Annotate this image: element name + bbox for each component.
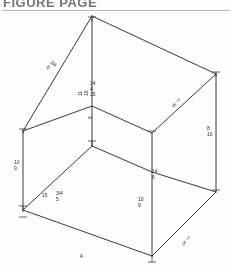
dimension-vertical-upper-left: 11 16	[78, 91, 89, 96]
edge-top-left-inner	[23, 106, 92, 131]
title-divider	[2, 10, 230, 11]
dim-sub: 5	[56, 197, 63, 203]
page-header: FIGURE PAGE	[0, 0, 232, 15]
dimension-mid-right: 14 6	[152, 169, 157, 180]
dim-sub: 9	[14, 166, 19, 172]
edge-bottom-front-left	[23, 210, 152, 256]
dim-sub: 9	[138, 203, 143, 209]
dim-value: 4	[80, 253, 83, 259]
dimension-lower-right-vertical: 10 9	[138, 197, 143, 208]
edge-mid-right	[152, 172, 216, 192]
dimension-bottom-edge: 4	[80, 254, 83, 260]
dim-value-3: 15	[90, 92, 95, 98]
vertex-tick-marks	[19, 17, 220, 262]
dim-value: 15	[42, 192, 47, 198]
edge-top-back-right	[92, 16, 216, 74]
tick-center-mid	[88, 141, 96, 146]
dimension-left-vertical: 10 9	[14, 160, 19, 171]
dim-sub: 16	[84, 91, 90, 96]
drawing-canvas: 3/4 9 11 16 14 4 15 6 7	[0, 14, 232, 272]
tick-bottom-apex	[148, 256, 156, 262]
edge-bottom-front-right	[152, 192, 216, 256]
isometric-box-drawing	[0, 14, 232, 272]
edge-top-front-left	[92, 106, 152, 133]
figure-page: FIGURE PAGE	[0, 0, 232, 272]
dim-sub: 6	[152, 175, 157, 181]
page-title: FIGURE PAGE	[3, 0, 97, 10]
dim-sub: 10	[207, 132, 212, 138]
dimension-center-vertical-mid: 6	[88, 116, 94, 119]
dimension-lower-left-b: 3/4 5	[56, 191, 63, 202]
dimension-right-vertical: 8 10	[207, 126, 212, 137]
dim-value: 6	[87, 116, 93, 119]
dimension-center-stack: 14 4 15	[90, 81, 95, 98]
dimension-lower-left-a: 15	[42, 193, 47, 199]
edge-bottom-back-right	[92, 146, 152, 172]
edge-top-back-left	[23, 16, 92, 131]
